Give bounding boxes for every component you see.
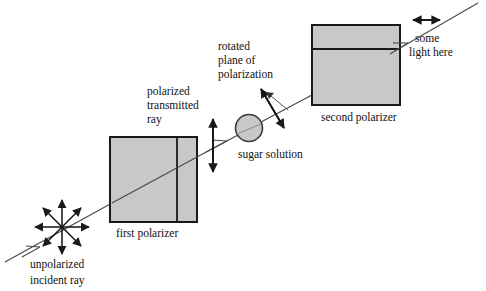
diagram-canvas: unpolarized incident ray first polarizer… (0, 0, 486, 291)
label-rotated-line2: plane of (218, 54, 256, 67)
label-sugar-solution: sugar solution (238, 148, 303, 161)
incident-ray (5, 203, 112, 262)
sugar-solution-circle (236, 115, 263, 142)
label-rotated-line3: polarization (218, 68, 273, 81)
label-rotated-line1: rotated (218, 40, 250, 52)
label-some-light-line1: some (415, 32, 439, 44)
rotated-label-leader-line (266, 92, 288, 110)
first-polarizer-box (110, 137, 197, 222)
label-polarized-line2: transmitted (147, 99, 199, 111)
unpolarized-starburst-icon (35, 200, 89, 254)
label-some-light-line2: light here (409, 46, 453, 59)
second-polarizer-box (312, 25, 400, 105)
ray-direction-tick-polarized (206, 140, 227, 152)
tilted-double-arrow-icon (261, 89, 284, 128)
label-first-polarizer: first polarizer (116, 227, 178, 240)
label-second-polarizer: second polarizer (321, 111, 397, 124)
polarization-diagram: unpolarized incident ray first polarizer… (0, 0, 486, 291)
label-polarized-line1: polarized (147, 85, 190, 98)
label-unpolarized-line2: incident ray (30, 274, 85, 287)
label-polarized-line3: ray (147, 113, 162, 126)
label-unpolarized-line1: unpolarized (30, 258, 85, 271)
